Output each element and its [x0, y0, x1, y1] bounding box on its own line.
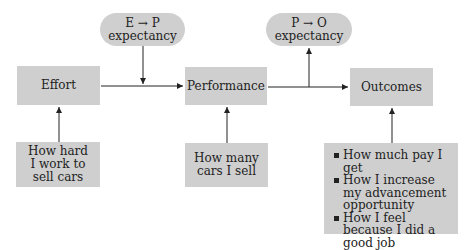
outcomes-examples-list: How much pay I get How I increase my adv…: [334, 149, 452, 249]
outcomes-example-item: How I feel because I did a good job: [334, 212, 452, 250]
performance-node: Performance: [185, 67, 267, 105]
performance-example-node: How many cars I sell: [185, 143, 268, 187]
outcomes-example-item: How much pay I get: [334, 149, 452, 174]
ep-expectancy-node: E → P expectancy: [100, 13, 185, 46]
po-expectancy-title: P → O: [291, 17, 327, 30]
outcomes-examples-node: How much pay I get How I increase my adv…: [324, 143, 458, 234]
performance-label: Performance: [187, 80, 265, 93]
po-expectancy-subtitle: expectancy: [275, 30, 344, 43]
effort-node: Effort: [17, 66, 100, 105]
effort-example-label: How hard I work to sell cars: [26, 145, 90, 184]
outcomes-example-item: How I increase my advancement opportunit…: [334, 174, 452, 212]
ep-expectancy-title: E → P: [125, 17, 160, 30]
effort-example-node: How hard I work to sell cars: [16, 142, 100, 187]
outcomes-label: Outcomes: [361, 81, 422, 94]
outcomes-node: Outcomes: [350, 68, 433, 106]
performance-example-label: How many cars I sell: [193, 152, 260, 178]
effort-label: Effort: [41, 79, 76, 92]
ep-expectancy-subtitle: expectancy: [108, 30, 177, 43]
po-expectancy-node: P → O expectancy: [266, 13, 352, 46]
